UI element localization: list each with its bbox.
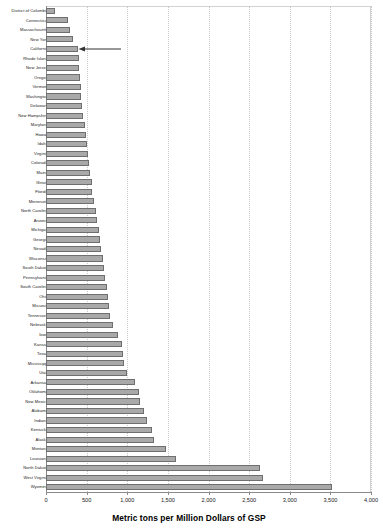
bar-row: Montana: [0, 444, 378, 454]
bar-row: Mississippi: [0, 359, 378, 369]
bar-row: Rhode Island: [0, 54, 378, 64]
bar-row: Florida: [0, 187, 378, 197]
bar-row: Nebraska: [0, 320, 378, 330]
bar-row: Iowa: [0, 330, 378, 340]
bar-row: West Virginia: [0, 473, 378, 483]
bar-new-hampshire: [46, 113, 83, 119]
bar-georgia: [46, 236, 100, 242]
bar-row: New York: [0, 35, 378, 45]
bar-row: Idaho: [0, 139, 378, 149]
bar-minnesota: [46, 198, 94, 204]
bar-label-alaska: Alaska: [0, 435, 48, 445]
bar-idaho: [46, 141, 87, 147]
bar-label-new-hampshire: New Hampshire: [0, 111, 48, 121]
bar-label-alabama: Alabama: [0, 406, 48, 416]
bar-label-missouri: Missouri: [0, 301, 48, 311]
bar-row: Oregon: [0, 73, 378, 83]
bar-pennsylvania: [46, 275, 105, 281]
bar-row: Pennsylvania: [0, 273, 378, 283]
bar-row: Oklahoma: [0, 387, 378, 397]
bar-delaware: [46, 103, 82, 109]
bar-west-virginia: [46, 475, 263, 481]
bar-label-new-jersey: New Jersey: [0, 63, 48, 73]
bar-illinois: [46, 179, 92, 185]
bar-label-georgia: Georgia: [0, 235, 48, 245]
bar-wyoming: [46, 484, 332, 490]
bar-texas: [46, 351, 123, 357]
bar-row: North Dakota: [0, 463, 378, 473]
bar-arizona: [46, 217, 97, 223]
bar-row: Utah: [0, 368, 378, 378]
bar-row: New Hampshire: [0, 111, 378, 121]
x-tick-label-3500: 3,500: [310, 497, 350, 503]
bar-label-mississippi: Mississippi: [0, 359, 48, 369]
bar-row: Alaska: [0, 435, 378, 445]
bar-south-carolina: [46, 284, 107, 290]
x-tick-label-1000: 1,000: [107, 497, 147, 503]
bar-row: Arizona: [0, 216, 378, 226]
bar-louisiana: [46, 456, 176, 462]
x-tick-label-4000: 4,000: [351, 497, 383, 503]
x-tick-1500: [168, 492, 169, 495]
bar-alabama: [46, 408, 144, 414]
x-tick-1000: [127, 492, 128, 495]
bar-row: New Jersey: [0, 63, 378, 73]
bar-label-indiana: Indiana: [0, 416, 48, 426]
bar-label-maryland: Maryland: [0, 120, 48, 130]
bar-label-massachusetts: Massachusetts: [0, 25, 48, 35]
bar-row: Minnesota: [0, 197, 378, 207]
bar-label-montana: Montana: [0, 444, 48, 454]
bar-row: Vermont: [0, 82, 378, 92]
bar-virginia: [46, 151, 88, 157]
bar-label-oregon: Oregon: [0, 73, 48, 83]
bar-row: Nevada: [0, 244, 378, 254]
bar-new-mexico: [46, 398, 140, 404]
bar-florida: [46, 189, 92, 195]
bar-label-california: California: [0, 44, 48, 54]
bar-south-dakota: [46, 265, 104, 271]
bar-row: California: [0, 44, 378, 54]
bar-label-kentucky: Kentucky: [0, 425, 48, 435]
bar-nebraska: [46, 322, 113, 328]
bar-label-colorado: Colorado: [0, 158, 48, 168]
bar-label-south-dakota: South Dakota: [0, 263, 48, 273]
bar-row: North Carolina: [0, 206, 378, 216]
bar-row: Virginia: [0, 149, 378, 159]
bar-label-pennsylvania: Pennsylvania: [0, 273, 48, 283]
x-axis-title: Metric tons per Million Dollars of GSP: [0, 513, 378, 523]
bar-row: Kentucky: [0, 425, 378, 435]
bar-row: Hawaii: [0, 130, 378, 140]
x-tick-label-500: 500: [67, 497, 107, 503]
bar-north-carolina: [46, 208, 96, 214]
bar-label-north-dakota: North Dakota: [0, 463, 48, 473]
bar-kansas: [46, 341, 122, 347]
bar-label-new-mexico: New Mexico: [0, 397, 48, 407]
bar-row: Missouri: [0, 301, 378, 311]
bar-row: Washington: [0, 92, 378, 102]
bar-mississippi: [46, 360, 124, 366]
bar-montana: [46, 446, 166, 452]
bar-label-illinois: Illinois: [0, 178, 48, 188]
bar-alaska: [46, 437, 154, 443]
bar-label-tennessee: Tennessee: [0, 311, 48, 321]
bar-row: Alabama: [0, 406, 378, 416]
x-tick-4000: [371, 492, 372, 495]
bar-label-rhode-island: Rhode Island: [0, 54, 48, 64]
bar-label-new-york: New York: [0, 35, 48, 45]
bar-label-wisconsin: Wisconsin: [0, 254, 48, 264]
bar-label-south-carolina: South Carolina: [0, 282, 48, 292]
california-arrow-icon: [78, 44, 122, 54]
bar-connecticut: [46, 17, 68, 23]
bar-row: Ohio: [0, 292, 378, 302]
bar-row: New Mexico: [0, 397, 378, 407]
x-tick-2000: [209, 492, 210, 495]
bar-label-connecticut: Connecticut: [0, 16, 48, 26]
bar-label-district-of-columbia: District of Columbia: [0, 6, 48, 16]
bar-label-maine: Maine: [0, 168, 48, 178]
bar-label-virginia: Virginia: [0, 149, 48, 159]
bar-oklahoma: [46, 389, 139, 395]
bar-hawaii: [46, 132, 86, 138]
bar-oregon: [46, 74, 80, 80]
bar-label-nevada: Nevada: [0, 244, 48, 254]
